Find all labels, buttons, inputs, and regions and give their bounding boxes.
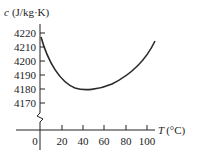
svg-text:60: 60 xyxy=(99,135,111,147)
svg-text:100: 100 xyxy=(139,135,156,147)
svg-text:4220: 4220 xyxy=(14,27,37,39)
svg-text:4180: 4180 xyxy=(14,83,37,95)
y-tick-labels: 4220 4210 4200 4190 4180 4170 xyxy=(14,27,37,109)
svg-text:4200: 4200 xyxy=(14,55,37,67)
x-axis-label: T(°C) xyxy=(158,124,186,137)
svg-text:20: 20 xyxy=(57,135,69,147)
chart: c(J/kg·K) 4220 4210 4200 4190 4180 4170 … xyxy=(0,0,197,154)
y-axis-label: c(J/kg·K) xyxy=(4,6,49,19)
data-curve xyxy=(41,37,155,90)
svg-text:4210: 4210 xyxy=(14,41,37,53)
y-axis xyxy=(37,24,45,150)
x-axis xyxy=(16,125,155,130)
x-tick-labels: 0 20 40 60 80 100 xyxy=(32,135,156,147)
svg-text:0: 0 xyxy=(32,135,38,147)
svg-text:4170: 4170 xyxy=(14,97,37,109)
svg-text:40: 40 xyxy=(78,135,90,147)
svg-text:80: 80 xyxy=(121,135,133,147)
svg-text:4190: 4190 xyxy=(14,69,37,81)
